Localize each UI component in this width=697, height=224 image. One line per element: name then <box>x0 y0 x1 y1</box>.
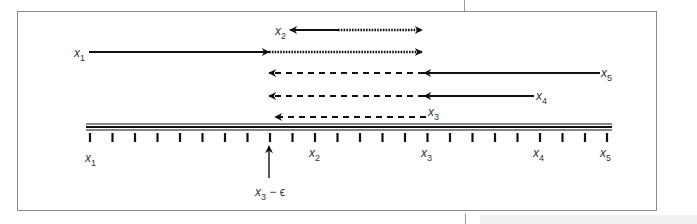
pointer-x3-minus-epsilon: x3 − ϵ <box>254 146 285 202</box>
arrow-row-x4: x4 <box>269 89 547 106</box>
arrow-row-x1: x1 <box>73 46 422 63</box>
label-x1-row2: x1 <box>73 46 85 63</box>
axis-label-x3: x3 <box>420 146 432 163</box>
pointer-label: x3 − ϵ <box>254 185 285 202</box>
timeline-labels: x1 x2 x3 x4 x5 <box>84 146 611 168</box>
axis-label-x4: x4 <box>532 146 544 163</box>
timeline-axis <box>86 124 612 130</box>
axis-label-x2: x2 <box>308 146 320 163</box>
label-x3-row5: x3 <box>427 105 439 122</box>
timeline-diagram: x2 x1 x5 x4 x3 <box>0 0 697 224</box>
timeline-ticks <box>90 133 607 142</box>
label-x5-row3: x5 <box>600 66 612 83</box>
axis-label-x1: x1 <box>84 151 96 168</box>
label-x4-row4: x4 <box>535 89 547 106</box>
arrow-row-x3: x3 <box>275 105 439 122</box>
axis-label-x5: x5 <box>599 146 611 163</box>
arrow-row-x5: x5 <box>269 66 612 83</box>
arrow-row-x2: x2 <box>274 24 422 41</box>
label-x2-row1: x2 <box>274 24 286 41</box>
